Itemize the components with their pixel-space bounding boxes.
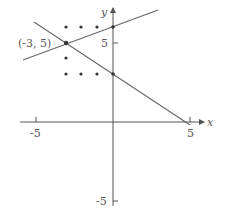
lattice-point xyxy=(111,72,115,76)
x-tick-label-neg5: -5 xyxy=(30,127,41,140)
y-tick-label-5: 5 xyxy=(101,37,108,50)
lattice-point xyxy=(64,25,67,28)
line-slope-one-third xyxy=(23,10,158,60)
point-label: (-3, 5) xyxy=(18,37,51,50)
x-axis-label: x xyxy=(207,116,214,129)
lattice-point xyxy=(95,72,98,75)
lattice-point xyxy=(111,25,115,29)
coordinate-plane: x y -5 5 5 -5 (-3, 5) xyxy=(0,0,225,220)
lattice-point xyxy=(64,56,67,59)
lattice-points xyxy=(64,25,114,76)
lattice-point xyxy=(64,72,67,75)
lattice-point xyxy=(79,25,82,28)
x-tick-label-5: 5 xyxy=(187,127,194,140)
point-neg3-5 xyxy=(64,41,68,45)
y-axis-label: y xyxy=(100,6,108,19)
lattice-point xyxy=(79,72,82,75)
lattice-point xyxy=(95,25,98,28)
y-tick-label-neg5: -5 xyxy=(96,195,107,208)
